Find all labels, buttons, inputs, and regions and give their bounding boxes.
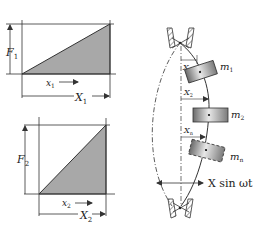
dashed-mode-shape — [152, 43, 180, 206]
svg-text:X1: X1 — [74, 91, 87, 106]
beam-system: X1 m1 X2 m2 Xn mn X sin ωt — [152, 28, 253, 218]
work-area-triangle-2 — [39, 125, 106, 194]
bottom-support-icon — [168, 199, 193, 218]
force-displacement-panel-2: F2 x2 X2 — [16, 117, 115, 224]
mass-m1 — [185, 60, 218, 83]
svg-text:F1: F1 — [5, 46, 18, 61]
force-displacement-panel-1: F1 x1 X1 — [5, 20, 116, 106]
mass-m2 — [193, 108, 228, 122]
svg-text:x2: x2 — [62, 198, 71, 209]
top-support-icon — [167, 28, 194, 48]
mass-mn — [189, 139, 226, 162]
excitation-label: X sin ωt — [208, 177, 253, 190]
svg-text:x1: x1 — [46, 78, 55, 89]
svg-text:mn: mn — [230, 151, 243, 163]
svg-text:m1: m1 — [220, 61, 233, 73]
svg-text:m2: m2 — [231, 109, 244, 121]
svg-text:F2: F2 — [16, 153, 29, 168]
svg-text:X2: X2 — [79, 209, 92, 224]
work-area-triangle-1 — [22, 24, 110, 74]
svg-text:X2: X2 — [183, 88, 193, 98]
svg-text:Xn: Xn — [183, 126, 194, 136]
diagram-canvas: F1 x1 X1 F2 x2 X2 — [0, 0, 255, 230]
